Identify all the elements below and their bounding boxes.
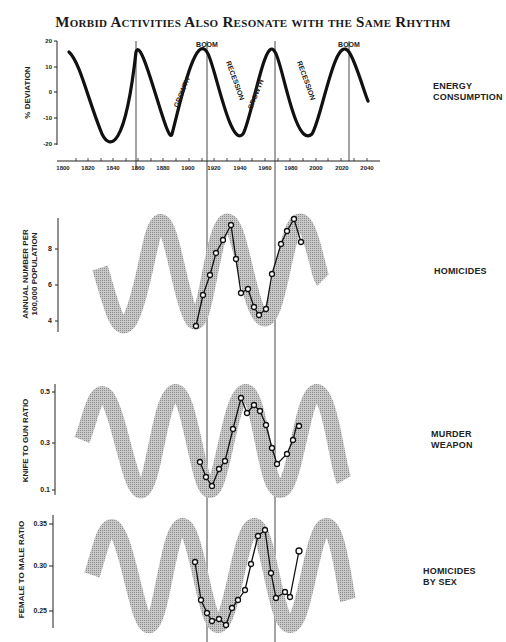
svg-text:4: 4 — [48, 317, 52, 324]
energy-ylabel: % DEVIATION — [23, 58, 32, 128]
svg-text:2000: 2000 — [309, 165, 323, 171]
svg-text:2020: 2020 — [335, 165, 349, 171]
homicides-ylabel: ANNUAL NUMBER PER 100,000 POPULATION — [21, 224, 39, 324]
boom-label-1: BOOM — [196, 41, 218, 48]
sex-panel: 0.350.300.25 — [33, 515, 348, 628]
growth-label-2: GROWTH — [246, 78, 264, 110]
svg-text:0.35: 0.35 — [33, 520, 47, 527]
weapon-panel-label: MURDER WEAPON — [431, 429, 473, 451]
homicides-ylabel-line2: 100,000 POPULATION — [30, 224, 39, 324]
svg-text:1980: 1980 — [284, 165, 298, 171]
svg-text:0.30: 0.30 — [33, 562, 47, 569]
svg-text:1840: 1840 — [106, 165, 120, 171]
svg-text:6: 6 — [48, 281, 52, 288]
svg-text:8: 8 — [48, 245, 52, 252]
energy-x-axis: 180018201840 186018801900 192019401960 1… — [56, 158, 380, 171]
weapon-panel: 0.50.30.1 — [40, 384, 344, 495]
svg-text:0: 0 — [49, 89, 53, 95]
svg-text:1860: 1860 — [131, 165, 145, 171]
svg-text:1880: 1880 — [156, 165, 170, 171]
sex-panel-label: HOMICIDES BY SEX — [423, 566, 476, 588]
sex-ylabel: FEMALE TO MALE RATIO — [17, 515, 26, 625]
energy-panel: 20 10 0 -10 -20 — [43, 38, 380, 171]
homicides-panel-label: HOMICIDES — [434, 266, 487, 277]
svg-text:-10: -10 — [43, 115, 52, 121]
svg-text:10: 10 — [45, 64, 52, 70]
weapon-band — [82, 392, 344, 490]
svg-text:0.3: 0.3 — [40, 439, 50, 446]
boom-label-2: BOOM — [338, 41, 360, 48]
growth-label-1: GROWTH — [172, 76, 190, 108]
homicides-ylabel-line1: ANNUAL NUMBER PER — [21, 224, 30, 324]
recession-label-1: RECESSION — [225, 60, 246, 101]
svg-text:20: 20 — [45, 38, 52, 44]
svg-text:0.1: 0.1 — [40, 486, 50, 493]
energy-panel-label: ENERGY CONSUMPTION — [433, 81, 503, 103]
svg-text:-20: -20 — [43, 141, 52, 147]
recession-label-2: RECESSION — [296, 60, 317, 101]
homicides-panel: 864 — [48, 217, 323, 333]
energy-curve — [69, 49, 368, 142]
svg-text:1900: 1900 — [181, 165, 195, 171]
svg-text:0.25: 0.25 — [33, 607, 47, 614]
energy-y-axis: 20 10 0 -10 -20 — [43, 38, 57, 147]
svg-text:1940: 1940 — [233, 165, 247, 171]
svg-text:1920: 1920 — [207, 165, 221, 171]
svg-text:1820: 1820 — [81, 165, 95, 171]
weapon-ylabel: KNIFE TO GUN RATIO — [21, 391, 30, 491]
svg-text:2040: 2040 — [360, 165, 374, 171]
svg-text:1800: 1800 — [56, 165, 70, 171]
sex-band — [92, 526, 348, 625]
svg-text:1960: 1960 — [258, 165, 272, 171]
svg-text:0.5: 0.5 — [40, 388, 50, 395]
